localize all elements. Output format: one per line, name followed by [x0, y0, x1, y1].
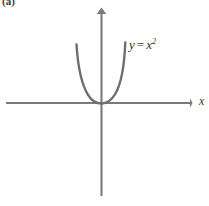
- equation-rhs-exponent: 2: [152, 37, 156, 46]
- equation-operator: =: [135, 37, 146, 52]
- parabola-plot: [0, 0, 209, 206]
- y-axis-arrowhead: [97, 8, 107, 15]
- curve-equation-label: y=x2: [129, 38, 156, 51]
- x-axis-arrowhead: [190, 98, 193, 108]
- x-axis-label: x: [199, 95, 204, 108]
- figure-panel-a: (a) y=x2 x: [0, 0, 209, 206]
- axes-group: [6, 8, 193, 197]
- equation-lhs: y: [129, 37, 135, 52]
